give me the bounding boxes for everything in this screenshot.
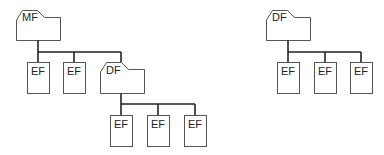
tree-mf: MF EF EF DF EF EF	[17, 11, 207, 147]
file-ef: EF	[148, 116, 170, 147]
file-label: EF	[114, 118, 128, 130]
file-label: EF	[31, 65, 45, 77]
file-structure-diagram: MF EF EF DF EF EF	[0, 0, 384, 155]
file-label: EF	[151, 118, 165, 130]
file-ef: EF	[185, 116, 207, 147]
file-ef: EF	[351, 63, 373, 94]
file-label: EF	[318, 65, 332, 77]
file-label: EF	[188, 118, 202, 130]
folder-label: DF	[272, 11, 287, 23]
file-ef: EF	[64, 63, 86, 94]
tree-df: DF EF EF EF	[267, 11, 373, 94]
file-label: EF	[67, 65, 81, 77]
folder-label: DF	[106, 64, 121, 76]
folder-df: DF	[267, 11, 311, 41]
file-ef: EF	[278, 63, 300, 94]
folder-mf: MF	[17, 11, 61, 41]
file-label: EF	[354, 65, 368, 77]
file-ef: EF	[111, 116, 133, 147]
folder-label: MF	[22, 11, 38, 23]
file-ef: EF	[315, 63, 337, 94]
file-label: EF	[281, 65, 295, 77]
file-ef: EF	[28, 63, 50, 94]
folder-df: DF	[101, 63, 145, 94]
